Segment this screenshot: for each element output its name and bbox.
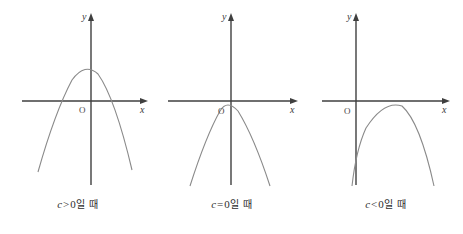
caption-particle: 일	[384, 199, 393, 210]
y-axis-arrowhead	[353, 13, 359, 21]
x-axis-label: x	[289, 104, 295, 115]
origin-label: O	[344, 106, 351, 116]
origin-label: O	[218, 106, 225, 116]
parabola-curve	[38, 69, 132, 172]
caption-c-positive: c>0일때	[0, 196, 155, 213]
quadratic-sign-of-c-figure: y x O c>0일때 y x O c=0일때	[0, 0, 463, 234]
parabola-curve	[352, 105, 434, 186]
caption-when: 때	[89, 199, 98, 210]
caption-when: 때	[243, 199, 252, 210]
caption-particle: 일	[76, 199, 85, 210]
caption-when: 때	[397, 199, 406, 210]
plot-c-negative: y x O	[308, 0, 463, 196]
caption-c-negative: c<0일때	[308, 196, 463, 213]
x-axis-label: x	[139, 104, 145, 115]
panel-c-negative: y x O c<0일때	[308, 0, 463, 234]
x-axis-label: x	[441, 104, 447, 115]
panel-c-positive: y x O c>0일때	[0, 0, 155, 234]
y-axis-label: y	[81, 11, 87, 22]
panel-c-zero: y x O c=0일때	[154, 0, 309, 234]
origin-label: O	[79, 105, 86, 115]
plot-c-zero: y x O	[154, 0, 309, 196]
caption-particle: 일	[230, 199, 239, 210]
caption-c-zero: c=0일때	[154, 196, 309, 213]
y-axis-arrowhead	[228, 13, 234, 21]
plot-c-positive: y x O	[0, 0, 155, 196]
y-axis-label: y	[221, 11, 227, 22]
y-axis-label: y	[346, 11, 352, 22]
y-axis-arrowhead	[88, 13, 94, 21]
parabola-curve	[190, 105, 270, 186]
